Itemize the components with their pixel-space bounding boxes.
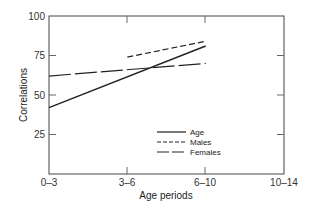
line-chart: 100 75 50 25 0–3 3–6 6–10 10–14 Age peri… bbox=[0, 0, 311, 209]
x-tick-10-14: 10–14 bbox=[270, 177, 298, 188]
legend-females-label: Females bbox=[190, 148, 221, 157]
y-tick-25: 25 bbox=[34, 129, 46, 140]
series-age-line bbox=[49, 46, 206, 108]
y-tick-100: 100 bbox=[28, 11, 45, 22]
series-males-line bbox=[127, 41, 205, 57]
y-tick-50: 50 bbox=[34, 90, 46, 101]
y-ticks bbox=[49, 56, 284, 135]
x-tick-6-10: 6–10 bbox=[194, 177, 217, 188]
x-tick-0-3: 0–3 bbox=[41, 177, 58, 188]
y-tick-75: 75 bbox=[34, 50, 46, 61]
legend-males-label: Males bbox=[190, 138, 211, 147]
x-tick-3-6: 3–6 bbox=[119, 177, 136, 188]
x-axis-title: Age periods bbox=[139, 190, 192, 201]
legend-age-label: Age bbox=[190, 128, 205, 137]
y-axis-title: Correlations bbox=[18, 68, 29, 122]
legend: Age Males Females bbox=[157, 128, 221, 157]
plot-frame bbox=[49, 16, 284, 174]
series-females-line bbox=[49, 63, 206, 76]
